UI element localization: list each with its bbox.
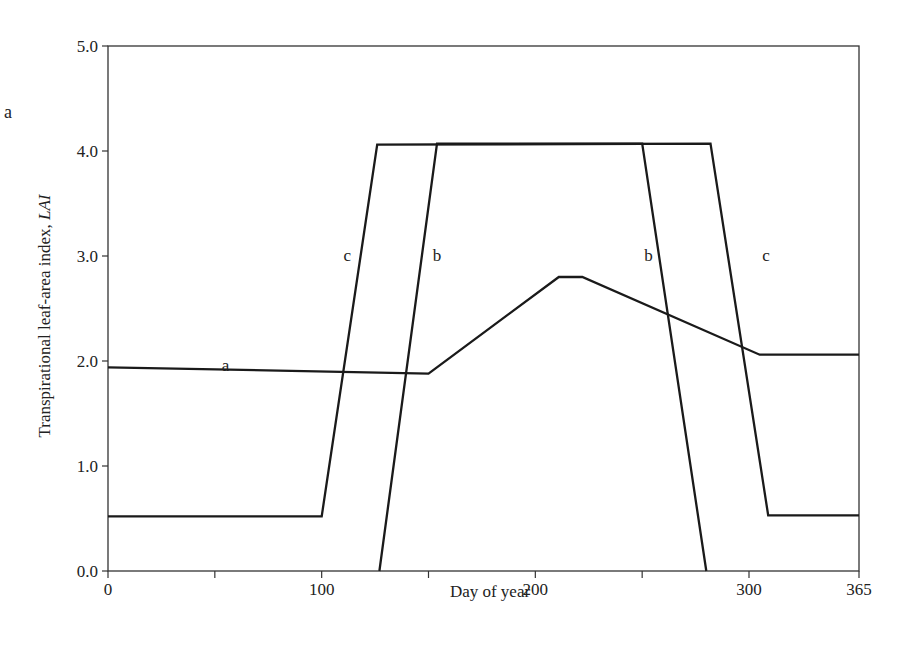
y-tick-label: 4.0 [77, 142, 98, 161]
x-tick-label: 100 [309, 580, 335, 599]
x-axis-title: Day of year [450, 582, 531, 601]
curve-label-b: b [644, 246, 653, 265]
y-axis: 0.01.02.03.04.05.0 [77, 37, 108, 581]
curve-label-b: b [433, 246, 442, 265]
curve-label-c: c [762, 246, 770, 265]
x-tick-label: 0 [104, 580, 113, 599]
y-tick-label: 5.0 [77, 37, 98, 56]
panel-label: a [4, 102, 12, 122]
x-tick-label: 365 [846, 580, 872, 599]
y-tick-label: 2.0 [77, 352, 98, 371]
x-tick-label: 300 [736, 580, 762, 599]
y-tick-label: 1.0 [77, 457, 98, 476]
plot-border [108, 46, 859, 571]
plot-frame [108, 46, 859, 571]
series-c-line [108, 144, 859, 517]
series-a-line [108, 277, 859, 374]
y-tick-label: 3.0 [77, 247, 98, 266]
lai-chart: 0.01.02.03.04.05.0 0100200300365 acbbc a… [0, 0, 907, 667]
series-lines [108, 144, 859, 571]
curve-label-c: c [344, 246, 352, 265]
y-tick-label: 0.0 [77, 562, 98, 581]
series-b-line [379, 144, 706, 571]
curve-label-a: a [222, 356, 230, 375]
curve-labels: acbbc [222, 246, 771, 375]
y-axis-title: Transpirational leaf-area index, LAI [35, 193, 54, 437]
